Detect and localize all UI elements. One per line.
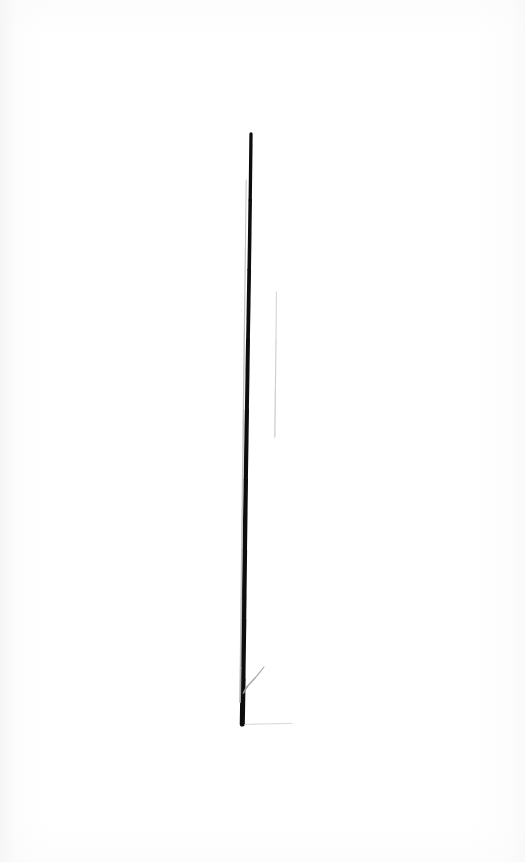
main-stem-segment bbox=[246, 410, 247, 480]
base-branch-tick bbox=[243, 667, 264, 693]
base-smudge-segment bbox=[245, 724, 262, 725]
ink-drawing bbox=[0, 0, 525, 862]
base-branch-tick-segment bbox=[255, 667, 264, 678]
main-stem-segment bbox=[243, 620, 244, 680]
ghost-stem-segment bbox=[243, 330, 244, 420]
detached-hairline-segment bbox=[275, 340, 276, 390]
main-stem-segment bbox=[245, 480, 246, 550]
main-stem-segment bbox=[249, 200, 250, 270]
main-stem-segment bbox=[247, 340, 248, 410]
ghost-stem-segment bbox=[241, 600, 242, 668]
ghost-stem-segment bbox=[244, 250, 245, 330]
base-branch-tick-segment bbox=[247, 678, 255, 687]
main-stem-segment bbox=[244, 550, 245, 620]
main-stem-segment bbox=[250, 134, 251, 200]
image-canvas bbox=[0, 0, 525, 862]
ghost-stem-segment bbox=[241, 510, 242, 600]
drawing-svg bbox=[0, 0, 525, 862]
ghost-stem-segment bbox=[245, 180, 246, 250]
detached-hairline-segment bbox=[275, 390, 276, 437]
stroke-group bbox=[240, 134, 292, 725]
main-stem-segment bbox=[248, 270, 249, 340]
detached-hairline bbox=[275, 292, 277, 437]
base-smudge bbox=[245, 723, 292, 724]
main-stem-segment bbox=[242, 680, 243, 724]
ghost-stem-segment bbox=[242, 420, 243, 510]
ghost-stem-segment bbox=[240, 668, 241, 702]
